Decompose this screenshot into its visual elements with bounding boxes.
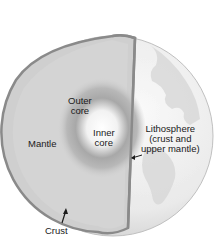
- inner-core-line-2: core: [93, 138, 115, 148]
- outer-core-line-2: core: [68, 106, 92, 116]
- lithosphere-line-3: upper mantle): [141, 144, 200, 154]
- inner-core-label: Inner core: [93, 128, 115, 148]
- lithosphere-label: Lithosphere (crust and upper mantle): [141, 124, 200, 154]
- crust-label: Crust: [45, 226, 68, 236]
- crust-text: Crust: [45, 226, 68, 236]
- outer-core-label: Outer core: [68, 96, 92, 116]
- mantle-text: Mantle: [28, 139, 57, 149]
- mantle-label: Mantle: [28, 139, 57, 149]
